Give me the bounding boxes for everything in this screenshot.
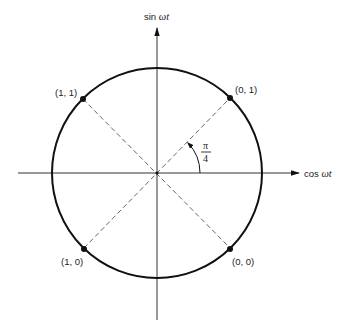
vertical-axis-label-var: ωt bbox=[159, 11, 170, 22]
label-upper-left: (1, 1) bbox=[55, 87, 77, 98]
horizontal-axis-label-var: ωt bbox=[321, 168, 332, 179]
point-upper-left bbox=[80, 96, 86, 102]
vertical-axis-label-fn: sin bbox=[144, 11, 159, 22]
unit-circle-diagram: (1, 1) (0, 1) (1, 0) (0, 0) sin ωt cos ω… bbox=[0, 0, 347, 333]
point-lower-left bbox=[81, 246, 87, 252]
diagram-canvas: (1, 1) (0, 1) (1, 0) (0, 0) sin ωt cos ω… bbox=[0, 0, 347, 333]
label-upper-right: (0, 1) bbox=[235, 84, 257, 95]
label-lower-right: (0, 0) bbox=[232, 256, 254, 267]
vertical-axis-label: sin ωt bbox=[144, 11, 170, 22]
angle-denominator: 4 bbox=[203, 153, 208, 164]
origin-point bbox=[155, 171, 158, 174]
angle-arc bbox=[188, 143, 200, 173]
horizontal-axis-label-fn: cos bbox=[304, 168, 321, 179]
point-upper-right bbox=[227, 95, 233, 101]
label-lower-left: (1, 0) bbox=[61, 256, 83, 267]
horizontal-axis-label: cos ωt bbox=[304, 168, 333, 179]
angle-numerator: π bbox=[203, 140, 208, 151]
point-lower-right bbox=[227, 246, 233, 252]
